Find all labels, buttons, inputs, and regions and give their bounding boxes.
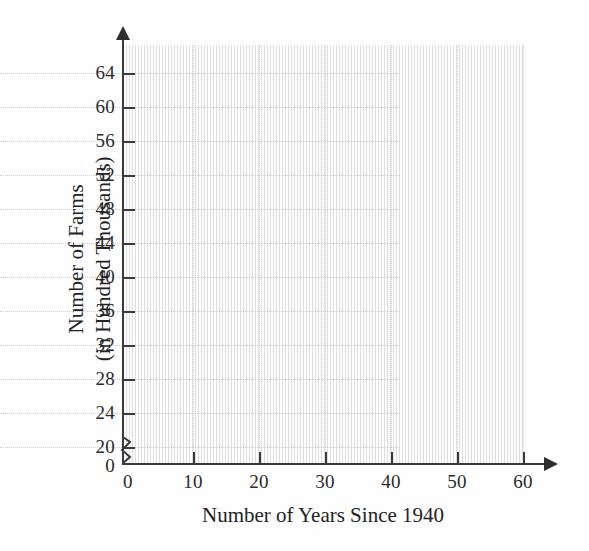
x-axis-tick [391, 452, 393, 463]
x-axis-tick [259, 452, 261, 463]
x-axis-tick-label: 60 [493, 471, 553, 493]
y-axis-tick [124, 175, 135, 177]
gridline-vertical [325, 45, 326, 464]
y-axis-title: Number of Farms (in Hundred Thousands) [63, 109, 117, 409]
y-axis-tick [124, 209, 135, 211]
y-axis-tick [124, 413, 135, 415]
x-axis-title: Number of Years Since 1940 [113, 503, 533, 528]
y-axis-line [122, 38, 124, 465]
y-axis-arrow-icon [116, 26, 130, 40]
y-axis-tick [124, 107, 135, 109]
x-axis-tick-label: 20 [229, 471, 289, 493]
gridline-vertical [523, 45, 524, 464]
y-axis-break-icon [118, 437, 138, 463]
y-axis-tick [124, 277, 135, 279]
x-axis-tick-label: 50 [427, 471, 487, 493]
y-axis-tick [124, 311, 135, 313]
y-axis-tick [124, 345, 135, 347]
x-axis-tick [193, 452, 195, 463]
x-axis-tick-label: 40 [361, 471, 421, 493]
y-axis-tick [124, 73, 135, 75]
y-axis-tick [124, 243, 135, 245]
x-axis-tick-label: 30 [295, 471, 355, 493]
x-axis-tick-label-zero: 0 [98, 471, 158, 493]
y-axis-title-line-1: Number of Farms [63, 109, 90, 409]
x-axis-tick [325, 452, 327, 463]
y-axis-title-line-2: (in Hundred Thousands) [90, 109, 117, 409]
x-axis-arrow-icon [544, 457, 558, 471]
x-axis-tick [523, 452, 525, 463]
x-axis-line [123, 463, 546, 465]
y-axis-tick [124, 379, 135, 381]
x-axis-tick [457, 452, 459, 463]
gridline-vertical [193, 45, 194, 464]
chart-figure: 64 60 56 52 48 44 40 36 32 28 24 20 0 0 … [0, 0, 589, 551]
y-axis-tick [124, 141, 135, 143]
gridline-vertical [391, 45, 392, 464]
y-axis-tick-label: 64 [55, 62, 115, 84]
gridline-vertical [259, 45, 260, 464]
x-axis-tick-label: 10 [163, 471, 223, 493]
gridline-vertical [457, 45, 458, 464]
